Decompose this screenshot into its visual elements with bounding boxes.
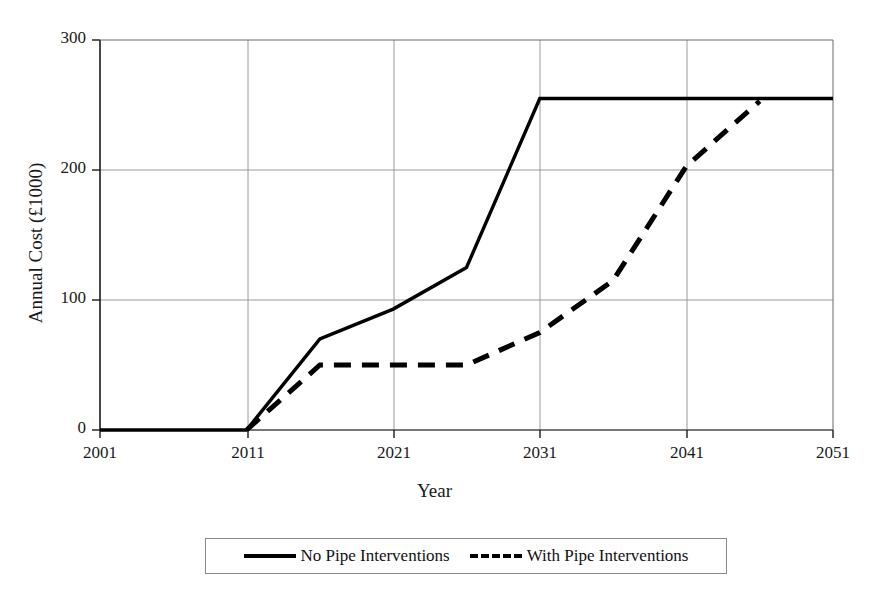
x-tick-2041: 2041 [647, 443, 727, 463]
legend-swatch-solid-line-icon [244, 554, 296, 558]
series-line-no-pipe-interventions [100, 99, 833, 431]
y-axis-ticks [92, 40, 100, 430]
legend-label-no-pipe-interventions: No Pipe Interventions [301, 546, 450, 566]
x-axis-label: Year [0, 480, 869, 502]
x-tick-2021: 2021 [354, 443, 434, 463]
chart-figure: Annual Cost (£1000) Year 300 200 100 0 2… [0, 0, 869, 602]
legend-entry-with-pipe-interventions: With Pipe Interventions [460, 546, 699, 566]
legend-swatch-dashed-line-icon [470, 554, 522, 558]
y-tick-200: 200 [26, 158, 86, 178]
y-tick-100: 100 [26, 288, 86, 308]
legend-entry-no-pipe-interventions: No Pipe Interventions [234, 546, 460, 566]
x-tick-2051: 2051 [793, 443, 869, 463]
legend-label-with-pipe-interventions: With Pipe Interventions [527, 546, 689, 566]
y-tick-0: 0 [26, 418, 86, 438]
plot-area [0, 0, 869, 602]
x-tick-2001: 2001 [60, 443, 140, 463]
x-tick-2011: 2011 [208, 443, 288, 463]
series-line-with-pipe-interventions [247, 101, 760, 430]
x-tick-2031: 2031 [500, 443, 580, 463]
chart-legend: No Pipe Interventions With Pipe Interven… [205, 538, 727, 574]
y-tick-300: 300 [26, 28, 86, 48]
